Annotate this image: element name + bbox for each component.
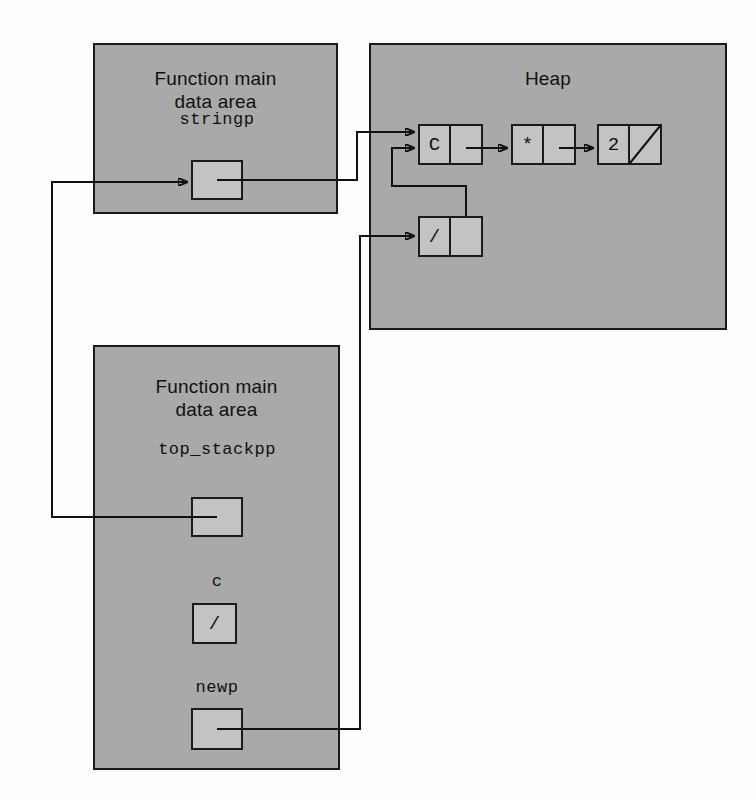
heap-node-star-data: * — [511, 124, 544, 165]
heap-node-slash-value: / — [420, 227, 449, 246]
var-label-top-stackpp: top_stackpp — [142, 440, 292, 460]
heap-node-slash-next — [449, 216, 483, 257]
var-label-newp: newp — [172, 678, 262, 698]
diagram-canvas: Function main data area Heap Function ma… — [0, 0, 756, 800]
heap-node-2-value: 2 — [599, 135, 628, 154]
var-slot-newp — [191, 708, 243, 750]
region-title-main-top: Function main data area — [95, 67, 336, 113]
var-label-c: c — [192, 572, 242, 592]
heap-node-c-value: C — [420, 135, 449, 154]
var-slot-value-c: / — [194, 613, 235, 635]
heap-node-slash-data: / — [418, 216, 451, 257]
heap-node-2-next-null — [628, 124, 662, 165]
region-heap: Heap — [369, 43, 727, 330]
region-title-main-bottom: Function main data area — [95, 375, 338, 421]
heap-node-star-value: * — [513, 135, 542, 154]
heap-node-c-data: C — [418, 124, 451, 165]
var-label-stringp: stringp — [167, 110, 267, 130]
heap-node-c-next — [449, 124, 483, 165]
var-slot-stringp — [191, 160, 243, 200]
heap-node-star-next — [542, 124, 576, 165]
var-slot-top-stackpp — [191, 497, 243, 537]
region-main-bottom: Function main data area — [93, 345, 340, 770]
scan-bleed-artifact — [404, 386, 704, 405]
var-slot-c: / — [192, 603, 237, 644]
heap-node-2-data: 2 — [597, 124, 630, 165]
region-title-heap: Heap — [371, 67, 725, 90]
